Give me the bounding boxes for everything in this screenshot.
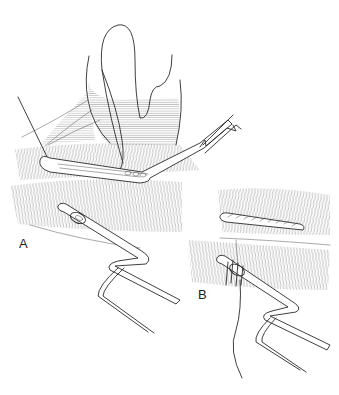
surgical-illustration bbox=[0, 0, 339, 395]
panel-label-b: B bbox=[198, 287, 207, 302]
panel-b-drawing bbox=[188, 188, 330, 378]
panel-label-a: A bbox=[19, 236, 28, 251]
